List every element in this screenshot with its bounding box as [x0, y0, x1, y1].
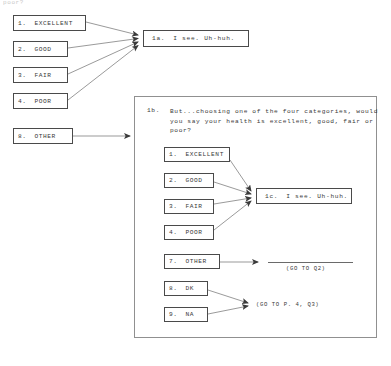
inner-option-fair-number: 3.	[165, 203, 178, 210]
inner-option-dk-label: DK	[178, 285, 195, 292]
inner-response-text: I see. Uh-huh.	[278, 193, 348, 200]
inner-option-good[interactable]: 2. GOOD	[164, 173, 214, 188]
outer-option-excellent[interactable]: 1. EXCELLENT	[13, 15, 86, 31]
inner-response-box[interactable]: 1c. I see. Uh-huh.	[256, 188, 352, 204]
inner-option-good-label: GOOD	[178, 177, 203, 184]
outer-option-other-number: 8.	[14, 133, 27, 140]
inner-option-poor-number: 4.	[165, 229, 178, 236]
inner-option-fair-label: FAIR	[178, 203, 203, 210]
outer-option-fair-label: FAIR	[27, 72, 52, 79]
outer-response-box[interactable]: 1a. I see. Uh-huh.	[143, 30, 249, 47]
inner-question-number: 1b.	[147, 107, 160, 114]
outer-option-poor[interactable]: 4. POOR	[13, 93, 68, 109]
inner-option-na-number: 9.	[165, 311, 178, 318]
inner-option-other[interactable]: 7. OTHER	[164, 254, 220, 269]
arrow-excellent-to-1a	[86, 22, 138, 35]
inner-option-na[interactable]: 9. NA	[164, 307, 208, 322]
outer-option-good-number: 2.	[14, 46, 27, 53]
dk-na-skip-note: (GO TO P. 4, Q3)	[256, 301, 319, 308]
flowchart-page: poor? 1. EXCELLENT 2. GOOD 3. FAIR 4. PO…	[0, 0, 391, 366]
inner-option-dk-number: 8.	[165, 285, 178, 292]
outer-option-other-label: OTHER	[27, 133, 56, 140]
inner-option-excellent-label: EXCELLENT	[178, 151, 224, 158]
inner-question-line3: poor?	[170, 126, 192, 136]
inner-question-line1: But...choosing one of the four categorie…	[170, 107, 378, 117]
cut-off-top-text: poor?	[3, 0, 24, 5]
outer-option-fair-number: 3.	[14, 72, 27, 79]
inner-option-other-label: OTHER	[178, 258, 207, 265]
arrow-poor-to-1a	[68, 46, 138, 101]
inner-option-na-label: NA	[178, 311, 195, 318]
inner-option-poor[interactable]: 4. POOR	[164, 225, 214, 240]
inner-option-excellent-number: 1.	[165, 151, 178, 158]
outer-option-poor-number: 4.	[14, 98, 27, 105]
outer-option-poor-label: POOR	[27, 98, 52, 105]
inner-option-other-number: 7.	[165, 258, 178, 265]
outer-option-other[interactable]: 8. OTHER	[13, 128, 73, 144]
inner-option-good-number: 2.	[165, 177, 178, 184]
other-skip-note: (GO TO Q2)	[286, 265, 326, 272]
outer-option-excellent-number: 1.	[14, 20, 27, 27]
other-answer-write-in-line	[268, 262, 353, 263]
inner-option-fair[interactable]: 3. FAIR	[164, 199, 214, 214]
inner-option-dk[interactable]: 8. DK	[164, 281, 208, 296]
arrow-fair-to-1a	[68, 42, 138, 74]
outer-option-good[interactable]: 2. GOOD	[13, 41, 68, 57]
inner-option-excellent[interactable]: 1. EXCELLENT	[164, 147, 230, 162]
outer-option-fair[interactable]: 3. FAIR	[13, 67, 68, 83]
inner-response-number: 1c.	[261, 193, 278, 200]
outer-option-excellent-label: EXCELLENT	[27, 20, 73, 27]
inner-option-poor-label: POOR	[178, 229, 203, 236]
outer-response-text: I see. Uh-huh.	[165, 35, 235, 42]
inner-question-line2: you say your health is excellent, good, …	[170, 117, 374, 127]
arrow-good-to-1a	[68, 39, 138, 49]
outer-response-number: 1a.	[148, 35, 165, 42]
outer-option-good-label: GOOD	[27, 46, 52, 53]
